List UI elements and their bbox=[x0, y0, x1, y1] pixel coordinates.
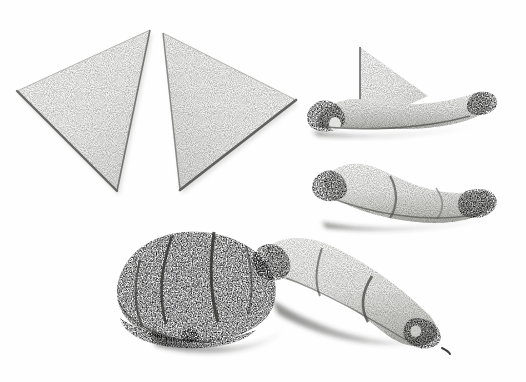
page-background bbox=[0, 0, 526, 382]
croissant-stages-illustration bbox=[0, 0, 526, 382]
illustration-plate bbox=[0, 0, 526, 382]
roll-start-tip-knob bbox=[329, 117, 341, 131]
